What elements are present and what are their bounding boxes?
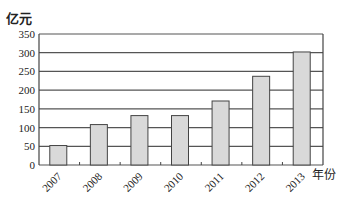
y-tick-label: 300 (19, 47, 36, 59)
bar-2013 (293, 52, 310, 165)
x-tick-label: 2009 (121, 170, 145, 194)
y-tick-label: 0 (30, 159, 36, 171)
y-tick-label: 150 (19, 103, 36, 115)
x-tick-label: 2012 (243, 170, 267, 194)
x-tick-label: 2007 (40, 170, 64, 194)
y-tick-label: 250 (19, 65, 36, 77)
y-tick-label: 50 (24, 140, 36, 152)
bar-2011 (212, 101, 229, 165)
y-axis-unit-label: 亿元 (6, 8, 32, 27)
bar-chart: 0501001502002503003502007200820092010201… (0, 0, 353, 201)
y-tick-label: 200 (19, 84, 36, 96)
y-tick-label: 350 (19, 28, 36, 40)
y-tick-label: 100 (19, 122, 36, 134)
x-tick-label: 2011 (202, 170, 226, 194)
bar-2008 (90, 125, 107, 165)
bar-2010 (172, 116, 189, 165)
x-axis-unit-label: 年份 (312, 165, 336, 182)
x-tick-label: 2008 (80, 170, 104, 194)
bar-2012 (253, 76, 270, 165)
chart-canvas: 0501001502002503003502007200820092010201… (0, 0, 353, 201)
x-tick-label: 2010 (161, 170, 185, 194)
bar-2007 (50, 146, 67, 165)
bar-2009 (131, 116, 148, 165)
x-tick-label: 2013 (283, 170, 307, 194)
